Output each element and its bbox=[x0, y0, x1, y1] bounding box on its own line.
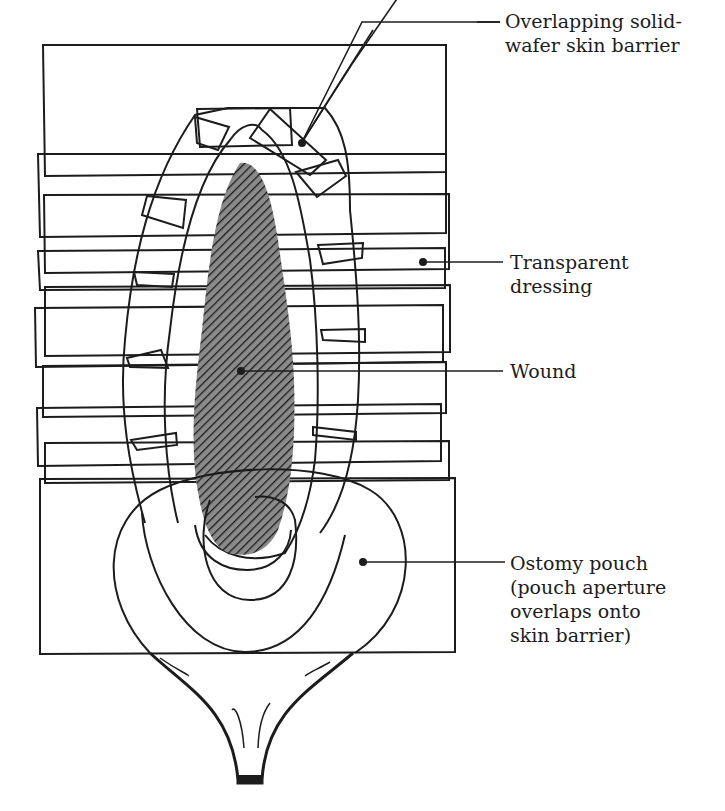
label-line: skin barrier) bbox=[510, 623, 666, 647]
label-line: wafer skin barrier bbox=[505, 33, 682, 57]
label-line: dressing bbox=[510, 274, 629, 298]
label-line: (pouch aperture bbox=[510, 575, 666, 599]
label-wound: Wound bbox=[510, 359, 576, 383]
label-line: Ostomy pouch bbox=[510, 551, 666, 575]
label-transparent-dressing: Transparent dressing bbox=[510, 250, 629, 298]
label-line: overlaps onto bbox=[510, 599, 666, 623]
label-line: Overlapping solid- bbox=[505, 9, 682, 33]
label-skin-barrier: Overlapping solid- wafer skin barrier bbox=[505, 9, 682, 57]
skin-barrier-leader-overlay bbox=[0, 0, 725, 811]
label-ostomy-pouch: Ostomy pouch (pouch aperture overlaps on… bbox=[510, 551, 666, 647]
label-line: Transparent bbox=[510, 250, 629, 274]
label-line: Wound bbox=[510, 359, 576, 383]
